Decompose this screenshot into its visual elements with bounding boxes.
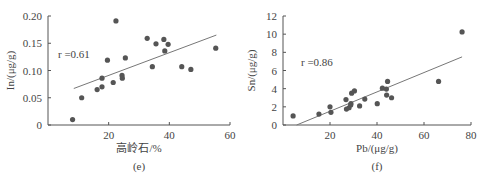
data-point (188, 67, 193, 72)
y-axis-label: Sn/(μg/g) (245, 49, 258, 91)
y-tick-label: 0 (37, 119, 43, 131)
data-point (385, 79, 390, 84)
data-point (166, 42, 171, 47)
data-point (384, 87, 389, 92)
correlation-annotation: r =0.61 (58, 48, 90, 60)
y-tick-label: 2 (272, 101, 278, 113)
y-tick-label: 0.05 (23, 92, 43, 104)
chart-panel-f: 02468101220406080Pb/(μg/g)Sn/(μg/g)(f)r … (240, 0, 483, 181)
data-point (328, 110, 333, 115)
data-point (105, 58, 110, 63)
panel-label: (e) (133, 160, 146, 173)
y-tick-label: 0 (272, 119, 278, 131)
chart-panel-e: 00.050.100.150.20204060高岭石/%In/(μg/g)(e)… (0, 0, 240, 181)
x-tick-label: 60 (419, 129, 431, 141)
y-tick-label: 0.10 (23, 65, 43, 77)
y-tick-label: 12 (266, 10, 277, 22)
data-point (150, 64, 155, 69)
data-point (70, 117, 75, 122)
y-tick-label: 6 (272, 65, 278, 77)
y-tick-label: 0.20 (23, 10, 43, 22)
data-point (316, 112, 321, 117)
data-point (436, 79, 441, 84)
data-point (113, 18, 118, 23)
y-tick-label: 0.15 (23, 37, 43, 49)
data-point (145, 36, 150, 41)
data-point (153, 41, 158, 46)
x-tick-label: 20 (103, 129, 115, 141)
data-point (161, 37, 166, 42)
x-tick-label: 40 (372, 129, 384, 141)
y-tick-label: 8 (272, 46, 278, 58)
data-point (213, 46, 218, 51)
data-point (123, 55, 128, 60)
data-point (120, 76, 125, 81)
x-tick-label: 40 (164, 129, 176, 141)
data-point (343, 97, 348, 102)
x-tick-label: 80 (466, 129, 478, 141)
data-point (352, 88, 357, 93)
x-tick-label: 60 (225, 129, 237, 141)
data-point (79, 95, 84, 100)
data-point (179, 64, 184, 69)
data-point (99, 84, 104, 89)
panel-label: (f) (372, 160, 383, 173)
data-point (99, 76, 104, 81)
y-tick-label: 10 (266, 28, 278, 40)
data-point (384, 92, 389, 97)
data-point (111, 80, 116, 85)
data-point (348, 101, 353, 106)
data-point (375, 101, 380, 106)
correlation-annotation: r =0.86 (301, 56, 333, 68)
data-point (291, 113, 296, 118)
x-tick-label: 20 (325, 129, 337, 141)
data-point (357, 103, 362, 108)
y-axis-label: In/(μg/g) (4, 50, 17, 90)
trend-line (74, 35, 217, 88)
data-point (459, 29, 464, 34)
y-tick-label: 4 (272, 83, 278, 95)
data-point (95, 87, 100, 92)
x-axis-label: 高岭石/% (116, 141, 161, 154)
scatter-chart-e: 00.050.100.150.20204060高岭石/%In/(μg/g)(e)… (0, 0, 240, 181)
data-point (162, 48, 167, 53)
x-axis-label: Pb/(μg/g) (356, 142, 398, 155)
scatter-chart-f: 02468101220406080Pb/(μg/g)Sn/(μg/g)(f)r … (240, 0, 483, 181)
data-point (327, 104, 332, 109)
data-point (362, 97, 367, 102)
data-point (389, 95, 394, 100)
